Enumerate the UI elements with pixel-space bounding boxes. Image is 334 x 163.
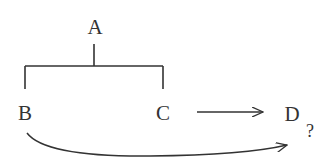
- curved-arrow-b-to-d: [27, 133, 287, 156]
- question-mark-annotation: ?: [306, 122, 314, 140]
- node-d: D: [284, 104, 299, 125]
- node-c: C: [156, 103, 170, 124]
- bracket-a-to-bc: [25, 44, 163, 89]
- diagram-canvas: [0, 0, 334, 163]
- node-a: A: [87, 17, 102, 38]
- node-b: B: [18, 103, 32, 124]
